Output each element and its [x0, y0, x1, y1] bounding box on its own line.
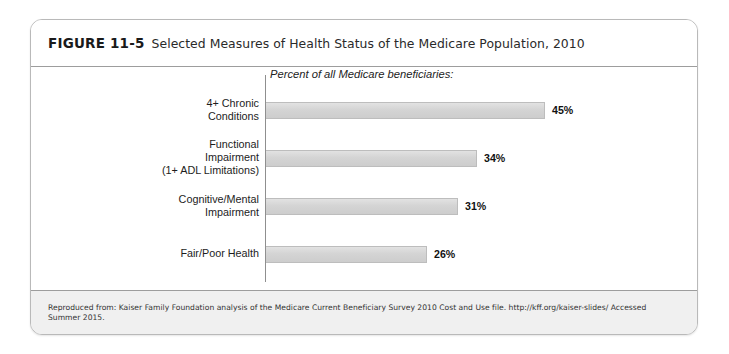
bar-row: Fair/Poor Health 26% — [31, 230, 697, 278]
source-citation: Reproduced from: Kaiser Family Foundatio… — [48, 303, 680, 323]
figure-number-label: FIGURE 11-5 — [48, 35, 145, 51]
figure-source-band: Reproduced from: Kaiser Family Foundatio… — [31, 290, 697, 334]
figure-title-text: Selected Measures of Health Status of th… — [152, 36, 585, 51]
axis-caption: Percent of all Medicare beneficiaries: — [270, 68, 453, 80]
category-label: Fair/Poor Health — [69, 247, 259, 260]
bar-cognitive-mental-impairment — [266, 198, 458, 215]
bar-value-label: 26% — [434, 248, 455, 260]
category-label: 4+ Chronic Conditions — [69, 97, 259, 123]
bar-value-label: 31% — [465, 200, 486, 212]
figure-card: FIGURE 11-5 Selected Measures of Health … — [30, 19, 698, 335]
figure-title-band: FIGURE 11-5 Selected Measures of Health … — [31, 20, 697, 67]
bar-row: Functional Impairment (1+ ADL Limitation… — [31, 134, 697, 182]
bar-track: 45% — [266, 86, 573, 134]
bar-track: 31% — [266, 182, 486, 230]
chart-panel: Percent of all Medicare beneficiaries: 4… — [31, 67, 697, 292]
bar-track: 26% — [266, 230, 455, 278]
bar-row: Cognitive/Mental Impairment 31% — [31, 182, 697, 230]
bar-functional-impairment — [266, 150, 477, 167]
category-label: Cognitive/Mental Impairment — [69, 193, 259, 219]
bar-value-label: 34% — [484, 152, 505, 164]
category-label: Functional Impairment (1+ ADL Limitation… — [69, 138, 259, 178]
bar-fair-poor-health — [266, 246, 427, 263]
bar-4-chronic-conditions — [266, 102, 545, 119]
bar-rows: 4+ Chronic Conditions 45% Functional Imp… — [31, 86, 697, 278]
bar-row: 4+ Chronic Conditions 45% — [31, 86, 697, 134]
bar-value-label: 45% — [552, 104, 573, 116]
bar-track: 34% — [266, 134, 505, 182]
